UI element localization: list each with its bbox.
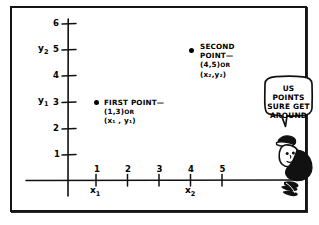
y-axis-variable-y1: y1 — [38, 96, 48, 107]
speech-bubble-line3: AROUND — [266, 111, 311, 120]
x-tick-label-5: 5 — [220, 165, 226, 174]
data-point-second — [189, 48, 194, 53]
y-tick-label-6: 6 — [53, 19, 59, 28]
second-point-annotation-line2: POINT— — [200, 51, 235, 60]
x-tick-label-2: 2 — [125, 165, 131, 174]
x-axis-variable-x1: x1 — [90, 186, 100, 197]
y2-subscript: 2 — [44, 47, 49, 55]
y-tick-label-4: 4 — [53, 71, 59, 80]
x1-subscript: 1 — [96, 190, 101, 198]
second-point-coord: (4,5) — [200, 60, 220, 69]
cartoon-character — [277, 136, 312, 196]
x2-subscript: 2 — [191, 190, 196, 198]
x-axis-variable-x2: x2 — [185, 186, 195, 197]
speech-bubble-line2: SURE GET — [266, 102, 311, 111]
y-tick-label-3: 3 — [53, 98, 59, 107]
second-point-annotation: SECOND POINT— (4,5)OR (x₂,y₂) — [200, 42, 235, 79]
y-tick-label-1: 1 — [54, 150, 60, 159]
first-point-annotation-line3: (x₁ , y₁) — [104, 116, 164, 125]
first-point-or: OR — [124, 108, 134, 115]
y1-subscript: 1 — [44, 100, 49, 108]
y-axis-variable-y2: y2 — [38, 44, 48, 55]
y-axis-ticks — [62, 24, 76, 155]
y-tick-label-2: 2 — [53, 124, 59, 133]
cartoon-coordinate-plane-figure: 6 5 4 3 2 1 y2 y1 1 2 3 4 5 x1 x2 FIRST … — [0, 0, 319, 225]
speech-bubble-line1: US POINTS — [266, 84, 311, 102]
speech-bubble-text: US POINTS SURE GET AROUND — [266, 84, 311, 120]
data-point-first — [94, 100, 99, 105]
y-tick-label-5: 5 — [53, 45, 59, 54]
first-point-annotation-line2: (1,3)OR — [104, 107, 164, 116]
second-point-annotation-line3: (4,5)OR — [200, 60, 235, 69]
x-tick-label-1: 1 — [94, 165, 100, 174]
first-point-annotation-line1: FIRST POINT— — [104, 98, 164, 107]
second-point-or: OR — [220, 61, 230, 68]
x-axis-line — [26, 180, 300, 181]
x-tick-label-4: 4 — [188, 165, 194, 174]
first-point-annotation: FIRST POINT— (1,3)OR (x₁ , y₁) — [104, 98, 164, 126]
second-point-annotation-line1: SECOND — [200, 42, 235, 51]
first-point-coord: (1,3) — [104, 107, 124, 116]
x-tick-label-3: 3 — [157, 165, 163, 174]
second-point-annotation-line4: (x₂,y₂) — [200, 70, 235, 79]
